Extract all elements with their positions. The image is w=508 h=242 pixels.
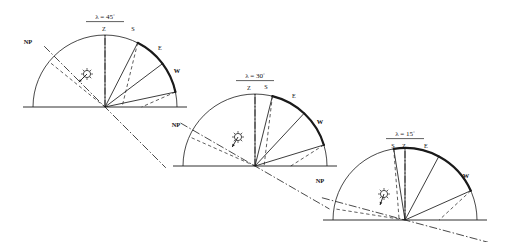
projection-dashed-line <box>142 92 176 107</box>
latitude-caption-text: λ = 15 <box>395 130 413 138</box>
label-np: NP <box>316 177 325 184</box>
sun-ray <box>234 133 235 134</box>
label-z: Z <box>247 84 251 91</box>
sun-ray <box>90 77 91 78</box>
latitude-caption: λ = 15° <box>395 130 415 138</box>
projection-dashed-line <box>394 149 399 220</box>
sun-motion-arrowhead <box>380 202 383 205</box>
arc-point-marker <box>323 144 325 146</box>
label-np: NP <box>24 38 33 45</box>
panel-45: ZSEWNPλ = 45° <box>23 13 187 168</box>
arc-point-marker <box>137 42 139 44</box>
sun-ray <box>387 190 388 191</box>
projection-dashed-line <box>439 191 471 220</box>
latitude-caption-text: λ = 45 <box>95 13 113 21</box>
sun-icon <box>378 188 390 205</box>
latitude-caption-text: λ = 30 <box>245 72 263 80</box>
degree-symbol: ° <box>263 72 265 77</box>
label-s: S <box>391 142 395 149</box>
label-z: Z <box>402 142 406 149</box>
sun-icon <box>232 131 244 147</box>
sun-ray <box>241 140 242 141</box>
ray-line <box>405 156 439 220</box>
sun-ray <box>380 190 381 191</box>
label-w: W <box>463 172 470 179</box>
label-e: E <box>424 142 428 149</box>
panel-30: ZSEWNPλ = 30° <box>172 72 337 209</box>
diurnal-path-arc <box>138 43 176 92</box>
ray-line <box>394 149 405 220</box>
sun-ray <box>90 70 91 71</box>
arc-point-marker <box>175 91 177 93</box>
degree-symbol: ° <box>413 130 415 135</box>
label-w: W <box>174 67 181 74</box>
sun-icon <box>79 68 93 82</box>
label-e: E <box>158 44 162 51</box>
label-w: W <box>317 118 324 125</box>
label-np: NP <box>172 121 181 128</box>
arc-point-marker <box>470 190 472 192</box>
sun-ray <box>234 140 235 141</box>
np-dashed-ray <box>49 62 105 107</box>
arc-point-marker <box>162 63 164 65</box>
arc-point-marker <box>438 156 440 158</box>
diagram-canvas: ZSEWNPλ = 45°ZSEWNPλ = 30°SZEWNPλ = 15° <box>0 0 508 242</box>
panel-15: SZEWNPλ = 15° <box>316 130 488 242</box>
sun-ray <box>387 197 388 198</box>
arc-point-marker <box>272 95 274 97</box>
sun-ray <box>380 197 381 198</box>
sun-ray <box>83 70 84 71</box>
ray-line <box>405 191 471 220</box>
projection-dashed-line <box>122 43 138 107</box>
projection-dashed-line <box>291 145 324 166</box>
label-s: S <box>131 25 135 32</box>
latitude-caption: λ = 30° <box>245 72 265 80</box>
ray-line <box>105 43 138 107</box>
celestial-diagram-svg: ZSEWNPλ = 45°ZSEWNPλ = 30°SZEWNPλ = 15° <box>0 0 508 242</box>
degree-symbol: ° <box>113 13 115 18</box>
arc-point-marker <box>303 112 305 114</box>
latitude-caption: λ = 45° <box>95 13 115 21</box>
label-z: Z <box>102 25 106 32</box>
label-s: S <box>264 83 268 90</box>
ray-line <box>255 96 272 166</box>
label-e: E <box>292 92 296 99</box>
np-dashed-ray <box>189 137 255 166</box>
sun-ray <box>241 133 242 134</box>
